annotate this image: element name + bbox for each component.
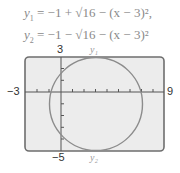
x-max-label: 9 xyxy=(167,85,173,97)
x-min-label: −3 xyxy=(7,85,20,97)
y-min-label: −5 xyxy=(52,151,65,163)
calculator-screen-frame xyxy=(25,57,164,151)
curve-label-y1: y₁ xyxy=(90,44,98,55)
graph-screen xyxy=(0,0,180,173)
curve-label-y2: y₂ xyxy=(90,152,98,163)
y-max-label: 3 xyxy=(57,43,63,55)
